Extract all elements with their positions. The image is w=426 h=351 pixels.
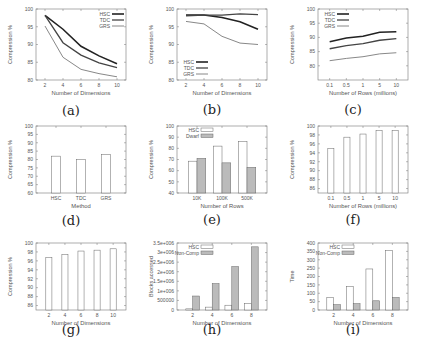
svg-text:3e+006: 3e+006 (157, 249, 174, 255)
caption-c: (c) (282, 102, 424, 117)
svg-text:40: 40 (168, 190, 174, 196)
svg-text:90: 90 (168, 41, 174, 47)
bar-8 (94, 250, 100, 310)
svg-text:86: 86 (309, 185, 315, 191)
y-axis-label: Compression % (289, 25, 295, 64)
y-axis-label: Compression % (148, 140, 154, 179)
y-axis-label: Time (289, 270, 295, 282)
x-axis-label: Method (71, 203, 90, 209)
svg-text:0: 0 (171, 307, 174, 313)
caption-f: (f) (282, 212, 424, 227)
svg-text:TDC: TDC (76, 195, 87, 201)
chart-panel-a: 80859095100Compression %Number of Dimens… (0, 0, 142, 117)
svg-text:6: 6 (80, 82, 83, 88)
y-axis-label: Compression % (7, 25, 13, 64)
svg-text:4: 4 (203, 82, 206, 88)
svg-text:0.1: 0.1 (326, 82, 333, 88)
svg-text:100: 100 (25, 240, 34, 246)
svg-text:0.5: 0.5 (343, 195, 350, 201)
bar-HSC (52, 156, 61, 193)
svg-text:10: 10 (114, 82, 120, 88)
svg-text:85: 85 (168, 59, 174, 65)
y-axis-label: Compression % (7, 140, 13, 179)
bar-dwarf-10K (197, 158, 206, 193)
svg-text:6: 6 (371, 312, 374, 318)
svg-text:3.5e+006: 3.5e+006 (153, 240, 174, 246)
legend-label: GRS (99, 23, 111, 29)
bar-hsc-4 (346, 287, 353, 310)
bar-non-comp-2 (193, 296, 200, 310)
series-line-hsc (186, 15, 258, 29)
y-axis-label: Compression % (289, 140, 295, 179)
svg-text:90: 90 (27, 284, 33, 290)
svg-text:98: 98 (27, 249, 33, 255)
svg-text:70: 70 (27, 173, 33, 179)
svg-text:80: 80 (168, 77, 174, 83)
legend-swatch (201, 128, 213, 132)
bar-non-comp-8 (392, 297, 399, 310)
svg-text:2: 2 (185, 82, 188, 88)
svg-text:4: 4 (211, 312, 214, 318)
svg-text:90: 90 (309, 34, 315, 40)
x-axis-label: Number of Rows (millions) (329, 90, 397, 96)
legend-swatch (201, 251, 213, 255)
svg-text:4: 4 (64, 312, 67, 318)
svg-text:90: 90 (27, 140, 33, 146)
bar-5 (376, 130, 382, 193)
svg-text:85: 85 (27, 59, 33, 65)
svg-text:96: 96 (27, 258, 33, 264)
svg-text:0.5: 0.5 (343, 82, 350, 88)
svg-text:88: 88 (309, 176, 315, 182)
svg-text:0: 0 (312, 307, 315, 313)
svg-text:10: 10 (255, 82, 261, 88)
bar-hsc-8 (245, 303, 252, 310)
svg-text:300: 300 (307, 257, 316, 263)
svg-text:100: 100 (307, 6, 316, 12)
legend-swatch (342, 251, 354, 255)
svg-text:96: 96 (309, 141, 315, 147)
svg-text:400: 400 (307, 240, 316, 246)
bar-non-comp-2 (334, 305, 341, 310)
svg-text:100K: 100K (216, 195, 228, 201)
chart-panel-e: 405060708090100Compression %Number of Ro… (141, 117, 283, 234)
svg-text:1: 1 (362, 195, 365, 201)
svg-text:8: 8 (239, 82, 242, 88)
chart-panel-g: 86889092949698100Compression %Number of … (0, 234, 142, 351)
legend-label: Non-Comp (316, 250, 340, 256)
svg-text:100: 100 (166, 123, 175, 129)
svg-text:2: 2 (44, 82, 47, 88)
svg-text:4: 4 (62, 82, 65, 88)
y-axis-label: Blocks accessed (148, 256, 154, 297)
caption-b: (b) (141, 102, 283, 117)
legend-swatch (342, 245, 354, 249)
svg-text:100: 100 (25, 123, 34, 129)
svg-text:94: 94 (27, 267, 33, 273)
caption-d: (d) (0, 213, 142, 228)
series-line-grs (45, 26, 117, 77)
svg-text:85: 85 (27, 148, 33, 154)
svg-text:10: 10 (392, 195, 398, 201)
y-axis-label: Compression % (7, 257, 13, 296)
chart-svg-c: 80859095100Compression %Number of Rows (… (282, 0, 424, 117)
svg-text:2: 2 (47, 312, 50, 318)
bar-0.1 (328, 148, 334, 193)
svg-text:4: 4 (352, 312, 355, 318)
svg-text:65: 65 (27, 181, 33, 187)
bar-dwarf-100K (222, 163, 231, 193)
bar-non-comp-4 (353, 304, 360, 310)
svg-text:2: 2 (191, 312, 194, 318)
bar-hsc-6 (225, 305, 232, 310)
svg-text:60: 60 (168, 167, 174, 173)
svg-text:5: 5 (378, 82, 381, 88)
caption-g: (g) (0, 322, 142, 337)
svg-text:150: 150 (307, 282, 316, 288)
svg-text:8: 8 (250, 312, 253, 318)
svg-text:6: 6 (80, 312, 83, 318)
legend-label: GRS (324, 23, 336, 29)
svg-text:80: 80 (309, 63, 315, 69)
legend-label: Non-Comp (175, 250, 199, 256)
caption-i: (i) (282, 322, 424, 337)
svg-text:80: 80 (168, 145, 174, 151)
bar-non-comp-4 (212, 284, 219, 310)
svg-text:100: 100 (307, 123, 316, 129)
